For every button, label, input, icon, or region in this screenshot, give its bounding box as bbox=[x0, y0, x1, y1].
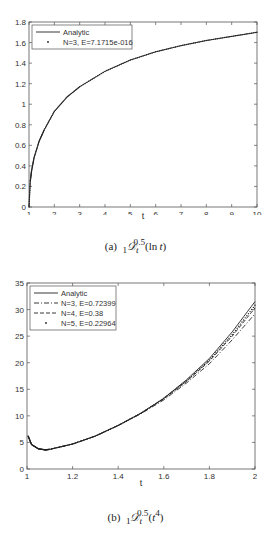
y-tick-label: 20 bbox=[15, 359, 24, 368]
y-tick-label: 5 bbox=[20, 438, 25, 447]
y-tick-label: 0.8 bbox=[15, 121, 27, 130]
caption-b: (b) 1𝒟t0.5(t4) bbox=[0, 508, 271, 526]
chart-b: 11.21.41.61.8205101520253035AnalyticN=3,… bbox=[0, 270, 271, 480]
y-tick-label: 0 bbox=[20, 465, 25, 474]
y-tick-label: 0.4 bbox=[15, 162, 27, 171]
x-axis-label-a: t bbox=[0, 211, 271, 221]
legend-entry: N=4, E=0.38 bbox=[61, 309, 103, 318]
y-tick-label: 1.6 bbox=[15, 39, 27, 48]
plot-frame bbox=[29, 22, 257, 207]
caption-a-label: (a) bbox=[105, 240, 117, 252]
y-tick-label: 35 bbox=[15, 279, 24, 288]
legend-entry: N=3, E=7.1715e-016 bbox=[63, 38, 133, 47]
caption-a: (a) 1𝒟t0.5(ln t) bbox=[0, 237, 271, 255]
legend-entry: N=5, E=0.22964 bbox=[61, 319, 116, 328]
y-tick-label: 1.8 bbox=[15, 18, 27, 27]
y-tick-label: 1 bbox=[22, 100, 27, 109]
caption-b-math: 1𝒟t0.5(t4) bbox=[123, 511, 163, 523]
x-axis-label-b: t bbox=[0, 478, 271, 488]
legend-entry: N=3, E=0.72399 bbox=[61, 299, 116, 308]
legend-entry: Analytic bbox=[63, 28, 90, 37]
y-tick-label: 1.2 bbox=[15, 80, 27, 89]
legend-entry: Analytic bbox=[61, 289, 88, 298]
chart-a: 1234567891000.20.40.60.811.21.41.61.8Ana… bbox=[0, 0, 271, 215]
figure-a: 1234567891000.20.40.60.811.21.41.61.8Ana… bbox=[0, 0, 271, 265]
caption-b-label: (b) bbox=[108, 511, 121, 523]
y-tick-label: 0.2 bbox=[15, 182, 27, 191]
y-tick-label: 0.6 bbox=[15, 141, 27, 150]
y-tick-label: 1.4 bbox=[15, 59, 27, 68]
y-tick-label: 30 bbox=[15, 306, 24, 315]
y-tick-label: 15 bbox=[15, 385, 24, 394]
y-tick-label: 25 bbox=[15, 332, 24, 341]
y-tick-label: 10 bbox=[15, 412, 24, 421]
caption-a-math: 1𝒟t0.5(ln t) bbox=[120, 240, 166, 252]
figure-b: 11.21.41.61.8205101520253035AnalyticN=3,… bbox=[0, 270, 271, 549]
legend: AnalyticN=3, E=0.72399N=4, E=0.38N=5, E=… bbox=[30, 286, 116, 330]
legend: AnalyticN=3, E=7.1715e-016 bbox=[32, 25, 133, 49]
